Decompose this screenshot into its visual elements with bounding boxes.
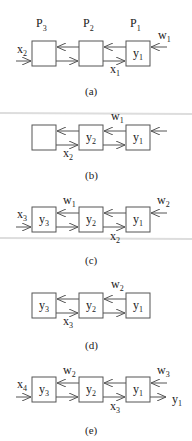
panel-c: y3 y2 y1 x3 w1 x2 w2 (c) bbox=[16, 193, 170, 267]
label-x3: x3 bbox=[17, 207, 27, 223]
label-w3: w3 bbox=[157, 363, 170, 379]
scan-line bbox=[0, 113, 192, 114]
label-w2: w2 bbox=[157, 193, 170, 209]
pipeline-diagram: P3 P2 P1 y1 x2 x1 w1 (a) y2 y1 w1 x2 (b) bbox=[0, 0, 192, 441]
processor-labels: P3 P2 P1 bbox=[36, 16, 141, 33]
processor-box-p3 bbox=[32, 125, 56, 150]
label-y1-output: y1 bbox=[172, 392, 182, 408]
panel-d: y3 y2 y1 w2 x3 (d) bbox=[32, 277, 150, 352]
processor-label-p1: P1 bbox=[130, 16, 141, 33]
label-x2: x2 bbox=[17, 42, 27, 58]
label-x1: x1 bbox=[110, 62, 120, 78]
processor-label-p2: P2 bbox=[83, 16, 94, 33]
scan-line bbox=[0, 238, 192, 239]
processor-box-p3 bbox=[32, 41, 56, 66]
label-x3: x3 bbox=[110, 399, 120, 415]
label-w1: w1 bbox=[111, 109, 124, 125]
panel-e: y3 y2 y1 x4 w2 x3 w3 y1 (e) bbox=[16, 363, 182, 437]
panel-caption: (c) bbox=[85, 254, 98, 267]
panel-caption: (d) bbox=[85, 339, 98, 352]
label-x2: x2 bbox=[110, 229, 120, 245]
processor-label-p3: P3 bbox=[36, 16, 47, 33]
panel-caption: (a) bbox=[85, 85, 98, 98]
panel-caption: (b) bbox=[85, 169, 98, 182]
label-w2: w2 bbox=[63, 363, 76, 379]
label-x4: x4 bbox=[17, 377, 27, 393]
label-x2: x2 bbox=[63, 146, 73, 162]
panel-a: y1 x2 x1 w1 (a) bbox=[16, 28, 171, 98]
panel-b: y2 y1 w1 x2 (b) bbox=[32, 109, 167, 182]
label-w2: w2 bbox=[111, 277, 124, 293]
panel-caption: (e) bbox=[85, 424, 98, 437]
label-w1: w1 bbox=[158, 28, 171, 44]
processor-box-p2 bbox=[79, 41, 103, 66]
label-x3: x3 bbox=[63, 314, 73, 330]
label-w1: w1 bbox=[63, 193, 76, 209]
